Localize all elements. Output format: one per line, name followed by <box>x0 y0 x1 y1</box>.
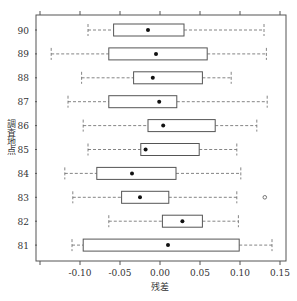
y-tick-label: 87 <box>18 97 30 107</box>
box-row-81 <box>72 239 272 251</box>
mean-marker <box>180 219 184 223</box>
outlier-marker <box>263 196 267 200</box>
mean-marker <box>130 171 134 175</box>
mean-marker <box>138 195 142 199</box>
y-tick-label: 90 <box>18 26 30 36</box>
box <box>148 120 215 132</box>
mean-marker <box>157 100 161 104</box>
box-row-83 <box>73 191 267 203</box>
x-tick-label: 0.05 <box>190 268 210 278</box>
y-tick-label: 84 <box>18 169 30 179</box>
mean-marker <box>144 148 148 152</box>
y-axis-tick-labels: 90898887868584838281 <box>18 26 37 251</box>
y-tick-label: 88 <box>18 73 30 83</box>
box-row-86 <box>83 120 257 132</box>
mean-marker <box>161 124 165 128</box>
box-row-89 <box>51 48 266 60</box>
box <box>134 72 203 84</box>
box <box>141 144 199 156</box>
x-tick-label: 0.10 <box>230 268 250 278</box>
box <box>122 191 169 203</box>
x-tick-label: -0.05 <box>108 268 131 278</box>
box-row-90 <box>88 24 264 36</box>
y-tick-label: 82 <box>18 217 29 227</box>
boxplot-chart: -0.10-0.050.000.050.100.15 9089888786858… <box>0 0 297 301</box>
x-tick-label: -0.10 <box>68 268 91 278</box>
mean-marker <box>154 52 158 56</box>
box-row-87 <box>68 96 267 108</box>
box <box>97 167 176 179</box>
box <box>109 96 177 108</box>
box-row-85 <box>88 144 237 156</box>
y-axis-label: 調査地点 <box>5 119 16 155</box>
y-tick-label: 85 <box>18 145 30 155</box>
box <box>83 239 239 251</box>
box-row-84 <box>65 167 241 179</box>
mean-marker <box>146 28 150 32</box>
mean-marker <box>166 243 170 247</box>
box-series <box>51 24 272 251</box>
y-tick-label: 89 <box>18 49 30 59</box>
x-tick-label: 0.00 <box>150 268 170 278</box>
box-row-82 <box>109 215 239 227</box>
x-axis-label: 残差 <box>140 280 180 293</box>
mean-marker <box>151 76 155 80</box>
y-tick-label: 81 <box>18 241 29 251</box>
y-tick-label: 86 <box>18 121 30 131</box>
box-row-88 <box>82 72 232 84</box>
x-tick-label: 0.15 <box>270 268 290 278</box>
y-tick-label: 83 <box>18 193 30 203</box>
